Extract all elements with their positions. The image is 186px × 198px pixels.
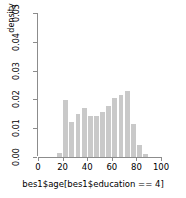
histogram-bar	[76, 114, 81, 157]
histogram-bar	[106, 106, 111, 157]
histogram-bars	[0, 0, 186, 198]
histogram-bar	[63, 100, 68, 157]
histogram-bar	[112, 98, 117, 157]
x-axis-label: bes1$age[bes1$education == 4]	[0, 180, 186, 189]
histogram-bar	[137, 145, 142, 157]
histogram-bar	[82, 108, 87, 157]
histogram-bar	[94, 116, 99, 157]
histogram-bar	[69, 122, 74, 157]
histogram-bar	[119, 95, 124, 157]
histogram-bar	[100, 112, 105, 157]
histogram-plot: density 0.000.010.020.030.040.05 0204060…	[0, 0, 186, 198]
histogram-bar	[143, 154, 148, 157]
histogram-bar	[57, 153, 62, 157]
histogram-bar	[131, 124, 136, 157]
histogram-bar	[125, 91, 130, 157]
histogram-bar	[88, 116, 93, 157]
